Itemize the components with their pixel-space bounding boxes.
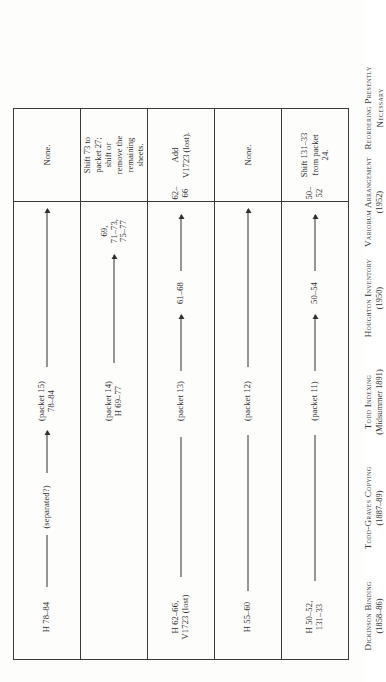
row-flow-h-62-66: H 62–66, V1723 (lost) (packet 13) 61–68 …	[148, 202, 214, 659]
table-row: H 55–60 (packet 12) None.	[215, 109, 282, 659]
row-flow-h-69-77: (packet 14) H 69–77 69, 71–73, 75–77	[81, 202, 147, 659]
cell-variorum: 69, 71–73, 75–77	[100, 217, 129, 246]
legend-date: (1887–89)	[374, 448, 385, 568]
cell-action: Shift 131–33 from packet 24.	[282, 109, 348, 202]
legend-item-todd-indexing: Todd Indexing (Midsummer 1891)	[362, 342, 385, 462]
cell-indexing: (packet 14) H 69–77	[104, 379, 123, 423]
cell-action: None.	[215, 109, 281, 202]
table-row: H 50–52, 131–33 (packet 11) 50–54 50–52 …	[282, 109, 348, 659]
cell-action: Add V1723 (lost).	[148, 109, 214, 202]
connector-arrow	[248, 209, 249, 367]
action-text: None.	[42, 141, 53, 170]
legend-name: Todd Indexing	[362, 342, 374, 462]
cell-indexing: (packet 11)	[310, 379, 320, 423]
connector-arrow	[47, 209, 48, 367]
legend-item-todd-graves-copying: Todd-Graves Copying (1887–89)	[362, 448, 385, 568]
connector-arrow	[47, 431, 48, 473]
legend-item-reordering: Reordering Presently Necessary	[362, 48, 386, 168]
table-grid: H 78–84 (separated?) (packet 15) 78–84 N…	[13, 108, 349, 660]
legend-name-second-line: Necessary	[374, 48, 386, 168]
connector-line	[47, 535, 48, 587]
connector-line	[248, 435, 249, 591]
action-text: None.	[243, 141, 254, 170]
connector-arrow	[315, 315, 316, 371]
cell-indexing: (packet 12)	[243, 379, 253, 423]
legend-item-dickinson-binding: Dickinson Binding (1858–86)	[362, 556, 385, 676]
cell-indexing: (packet 13)	[176, 379, 186, 423]
connector-arrow	[181, 215, 182, 271]
cell-binding: H 55–60	[243, 600, 253, 635]
legend-date: (Midsummer 1891)	[374, 342, 385, 462]
connector-arrow	[181, 315, 182, 371]
cell-binding: H 62–66, V1723 (lost)	[171, 593, 190, 642]
legend-name: Todd-Graves Copying	[362, 448, 374, 568]
connector-arrow	[114, 255, 115, 363]
action-text: Shift 131–33 from packet 24.	[299, 129, 331, 182]
connector-line	[181, 437, 182, 577]
cell-action: None.	[14, 109, 80, 202]
table-row: H 62–66, V1723 (lost) (packet 13) 61–68 …	[148, 109, 215, 659]
connector-line	[315, 435, 316, 581]
action-text: Shift 73 to packet 27; shift or remove t…	[82, 132, 146, 178]
action-text: Add V1723 (lost).	[170, 128, 191, 182]
provenance-table: H 78–84 (separated?) (packet 15) 78–84 N…	[13, 108, 349, 660]
cell-inventory: 50–54	[310, 280, 320, 306]
cell-copying: (separated?)	[42, 483, 52, 530]
legend-name: Reordering Presently	[362, 48, 374, 168]
cell-action: Shift 73 to packet 27; shift or remove t…	[81, 109, 147, 202]
row-flow-h-50-52: H 50–52, 131–33 (packet 11) 50–54 50–52	[282, 202, 348, 659]
table-row: H 78–84 (separated?) (packet 15) 78–84 N…	[14, 109, 81, 659]
cell-binding: H 78–84	[42, 600, 52, 635]
table-row: (packet 14) H 69–77 69, 71–73, 75–77 Shi…	[81, 109, 148, 659]
cell-indexing: (packet 15) 78–84	[37, 379, 56, 423]
connector-arrow	[315, 215, 316, 271]
cell-inventory: 61–68	[176, 280, 186, 306]
row-flow-h-78-84: H 78–84 (separated?) (packet 15) 78–84	[14, 202, 80, 659]
legend-date: (1858–86)	[374, 556, 385, 676]
legend-name: Dickinson Binding	[362, 556, 374, 676]
row-flow-h-55-60: H 55–60 (packet 12)	[215, 202, 281, 659]
cell-binding: H 50–52, 131–33	[305, 599, 324, 636]
